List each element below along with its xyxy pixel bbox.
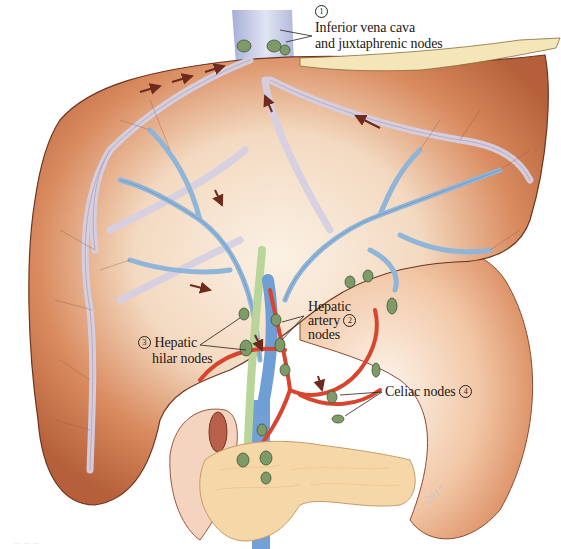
label-celiac-line1: Celiac nodes <box>385 384 456 399</box>
pancreatic-node <box>260 451 272 465</box>
gastric-node <box>387 298 397 314</box>
liver-lymphatic-diagram: 1 Inferior vena cava and juxtaphrenic no… <box>0 0 561 549</box>
juxtaphrenic-node <box>267 40 281 52</box>
label-hilar-line1: Hepatic <box>154 335 197 350</box>
label-number-1: 1 <box>315 5 328 18</box>
label-number-2: 2 <box>343 314 356 327</box>
figure-caption: — — — <box>14 540 40 546</box>
label-inferior-vena-cava: 1 Inferior vena cava and juxtaphrenic no… <box>315 4 443 52</box>
anatomy-illustration <box>0 0 561 549</box>
pancreatic-node <box>257 424 267 436</box>
label-ivc-line2: and juxtaphrenic nodes <box>315 36 443 51</box>
label-artery-line1: Hepatic <box>308 299 351 314</box>
label-number-4: 4 <box>459 385 472 398</box>
celiac-node <box>327 391 337 403</box>
label-hepatic-hilar-nodes: 3 Hepatic hilar nodes <box>138 335 213 367</box>
label-ivc-line1: Inferior vena cava <box>315 20 415 35</box>
juxtaphrenic-node <box>237 40 251 52</box>
pancreatic-node <box>237 453 249 467</box>
duodenal-lumen <box>209 412 227 452</box>
hepatic-artery-node <box>275 338 285 352</box>
juxtaphrenic-node <box>280 45 290 55</box>
label-hepatic-artery-nodes: Hepatic artery 2 nodes <box>308 300 356 342</box>
pancreatic-node <box>261 472 271 484</box>
hepatic-artery-node <box>280 364 290 376</box>
label-number-3: 3 <box>138 336 151 349</box>
gastric-node <box>363 270 373 282</box>
hilar-node <box>240 340 252 356</box>
label-artery-line3: nodes <box>308 327 340 342</box>
gastric-node <box>372 363 380 377</box>
gastric-node <box>345 276 355 288</box>
label-artery-line2: artery <box>308 313 340 328</box>
label-celiac-nodes: Celiac nodes 4 <box>385 384 472 400</box>
label-hilar-line2: hilar nodes <box>138 351 213 366</box>
celiac-node <box>332 415 344 423</box>
pancreas <box>200 441 415 541</box>
hepatic-artery-node <box>271 314 281 326</box>
hilar-node <box>239 308 249 320</box>
